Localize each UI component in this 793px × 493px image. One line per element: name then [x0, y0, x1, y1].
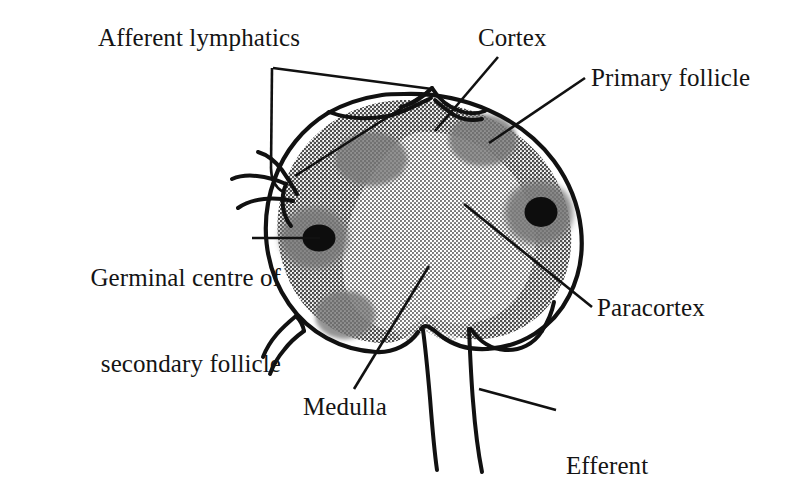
- label-afferent-lymphatics: Afferent lymphatics: [98, 24, 300, 51]
- label-germinal-centre-line2: secondary follicle: [33, 350, 281, 379]
- label-cortex: Cortex: [478, 24, 547, 51]
- leader-efferent-lymphatic: [479, 389, 556, 410]
- label-efferent-lymphatic-line1: Efferent: [566, 452, 667, 481]
- efferent-vessel-left-wall: [423, 330, 437, 470]
- label-medulla: Medulla: [303, 393, 387, 420]
- leader-afferent-vertical: [271, 68, 272, 168]
- germinal-centre-right: [525, 197, 558, 227]
- primary-follicle-lower-left: [315, 291, 375, 339]
- label-paracortex: Paracortex: [597, 294, 705, 321]
- lymph-node-diagram: Afferent lymphatics Cortex Primary folli…: [0, 0, 793, 493]
- label-efferent-lymphatic: Efferent lymphatic: [566, 395, 667, 493]
- leader-afferent-top-arm: [273, 68, 432, 89]
- primary-follicle-upper-left: [335, 132, 407, 186]
- label-primary-follicle: Primary follicle: [591, 64, 750, 91]
- leader-primary-follicle: [489, 78, 585, 143]
- afferent-vessel-left-inner: [232, 176, 286, 184]
- label-germinal-centre-line1: Germinal centre of: [33, 264, 281, 293]
- label-germinal-centre: Germinal centre of secondary follicle: [33, 207, 281, 435]
